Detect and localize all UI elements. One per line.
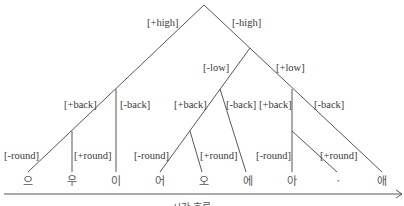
label-low-minus: [-low] xyxy=(203,63,229,74)
label-high-minus: [-high] xyxy=(232,18,261,29)
label-low-plus: [+low] xyxy=(276,63,305,74)
label-back-minus-3: [-back] xyxy=(314,100,344,111)
vowel-feature-tree-diagram: [+high] [-high] [-low] [+low] [+back] [-… xyxy=(0,0,404,206)
label-high-plus: [+high] xyxy=(147,18,179,29)
vowel-u: 우 xyxy=(67,176,77,187)
label-back-minus-1: [-back] xyxy=(120,100,150,111)
label-round-minus-2: [-round] xyxy=(134,151,169,162)
label-round-plus-1: [+round] xyxy=(74,151,111,162)
axis-arrow-top xyxy=(396,190,402,194)
label-round-minus-3: [-round] xyxy=(256,151,291,162)
branch-high-minus xyxy=(204,5,382,172)
label-round-minus-1: [-round] xyxy=(4,151,39,162)
label-back-plus-3: [+back] xyxy=(259,100,292,111)
vowel-e: 에 xyxy=(243,176,253,187)
vowel-i: 이 xyxy=(111,176,121,187)
axis-arrow-bottom xyxy=(396,194,402,198)
vowel-ae: 애 xyxy=(377,176,387,187)
vowel-eo: 어 xyxy=(155,176,165,187)
label-round-plus-3: [+round] xyxy=(320,151,357,162)
time-axis-caption: 시간 흐름 xyxy=(172,199,211,206)
vowel-eu: 으 xyxy=(23,176,33,187)
label-round-plus-2: [+round] xyxy=(200,151,237,162)
label-back-plus-1: [+back] xyxy=(64,100,97,111)
vowel-arae-a: ㆍ xyxy=(333,176,343,187)
vowel-o: 오 xyxy=(199,176,209,187)
vowel-a: 아 xyxy=(287,176,297,187)
label-back-minus-2: [-back] xyxy=(226,100,256,111)
label-back-plus-2: [+back] xyxy=(174,100,207,111)
